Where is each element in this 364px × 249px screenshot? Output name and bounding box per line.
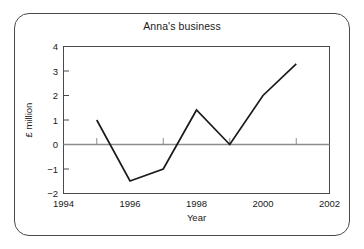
x-tick-label: 1996 <box>119 198 140 209</box>
y-tick-label: 2 <box>53 90 58 101</box>
y-axis-title: £ million <box>23 103 34 138</box>
y-tick-label: −1 <box>47 164 58 175</box>
plot-area-frame <box>64 47 330 194</box>
x-tick-label: 1994 <box>53 198 74 209</box>
y-tick-label: 4 <box>53 41 58 52</box>
y-tick-label: 3 <box>53 66 58 77</box>
x-axis-title: Year <box>187 212 206 223</box>
x-axis-tick-labels: 1994 1996 1998 2000 2002 <box>53 198 340 209</box>
line-chart-plot: 4 3 2 1 0 −1 −2 £ million 1994 1996 1998… <box>0 0 364 249</box>
y-tick-label: 0 <box>53 139 58 150</box>
y-axis-tick-labels: 4 3 2 1 0 −1 −2 <box>47 41 58 199</box>
y-tick-label: 1 <box>53 115 58 126</box>
x-tick-label: 2000 <box>252 198 273 209</box>
x-tick-label: 1998 <box>186 198 207 209</box>
x-tick-label: 2002 <box>319 198 340 209</box>
chart-screenshot: Anna's business 4 3 2 1 0 −1 −2 £ millio… <box>0 0 364 249</box>
